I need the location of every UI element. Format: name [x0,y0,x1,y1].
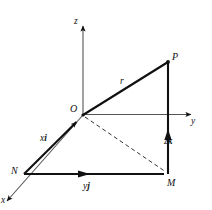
vector-r-label: r [120,77,124,87]
y-axis-label: y [191,117,195,127]
vector-xi-line [24,122,77,174]
dashed-om-line [85,117,166,172]
point-o-dot [81,113,84,116]
vector-zk-unit: k [168,136,173,146]
vector-xi-label: xi [40,134,47,144]
point-n-label: N [11,166,18,176]
diagram-canvas [0,0,212,210]
vector-xi-unit: i [44,133,47,143]
vector-zk-label: zk [164,137,172,147]
vector-yj-label: yj [83,182,90,192]
point-p-label: P [172,52,178,62]
point-p-dot [166,60,170,64]
z-axis-label: z [74,17,78,27]
point-m-label: M [167,178,175,188]
vector-diagram-figure: z y x O P M N r xi yj zk [0,0,212,210]
x-axis-label: x [1,196,5,206]
vector-yj-unit: j [87,181,90,191]
point-o-label: O [70,104,77,114]
vector-r-line [83,62,168,115]
vector-yj-arrowhead [78,171,90,178]
